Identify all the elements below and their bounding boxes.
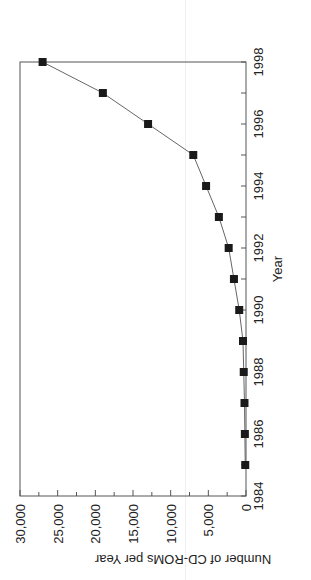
data-point-marker	[240, 368, 248, 376]
year-tick-label: 1996	[251, 110, 266, 139]
count-tick-label: 25,000	[51, 504, 66, 544]
count-tick-label: 5,000	[201, 504, 216, 537]
data-point-marker	[235, 306, 243, 314]
x-axis-label: Year	[270, 255, 285, 282]
year-tick-label: 1992	[251, 234, 266, 263]
year-tick-label: 1998	[251, 48, 266, 77]
data-point-marker	[144, 120, 152, 128]
data-point-marker	[39, 58, 47, 66]
count-tick-label: 0	[239, 504, 254, 511]
year-tick-label: 1986	[251, 420, 266, 449]
count-tick-label: 20,000	[88, 504, 103, 544]
data-point-marker	[99, 89, 107, 97]
data-series	[39, 58, 250, 469]
data-point-marker	[241, 430, 249, 438]
data-point-marker	[240, 399, 248, 407]
year-tick-label: 1988	[251, 358, 266, 387]
count-tick-label: 30,000	[13, 504, 28, 544]
data-point-marker	[215, 213, 223, 221]
line-chart: 19841986198819901992199419961998 05,0001…	[0, 0, 311, 580]
year-tick-label: 1990	[251, 296, 266, 325]
plot-frame	[20, 62, 246, 496]
y-axis-label: Number of CD-ROMs per Year	[94, 552, 271, 567]
data-point-marker	[239, 337, 247, 345]
count-tick-label: 15,000	[126, 504, 141, 544]
data-point-marker	[189, 151, 197, 159]
data-point-marker	[202, 182, 210, 190]
data-point-marker	[225, 244, 233, 252]
series-line	[43, 62, 246, 465]
data-point-marker	[241, 461, 249, 469]
count-axis: 05,00010,00015,00020,00025,00030,000	[13, 490, 254, 544]
year-tick-label: 1994	[251, 172, 266, 201]
plot-border	[20, 62, 246, 496]
count-tick-label: 10,000	[164, 504, 179, 544]
data-point-marker	[230, 275, 238, 283]
